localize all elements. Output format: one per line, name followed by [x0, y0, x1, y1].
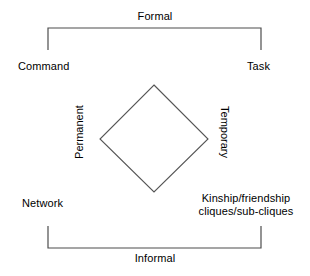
axis-label-temporary: Temporary [219, 100, 231, 164]
axis-label-permanent: Permanent [73, 100, 85, 164]
bottom-bracket [48, 226, 261, 248]
label-task: Task [247, 60, 270, 73]
label-kinship-cliques: Kinship/friendship cliques/sub-cliques [185, 192, 307, 218]
label-kinship-line1: Kinship/friendship [202, 192, 291, 204]
label-network: Network [22, 197, 63, 210]
label-command: Command [18, 60, 69, 73]
label-formal: Formal [0, 10, 310, 23]
center-diamond [100, 85, 208, 192]
label-informal: Informal [0, 252, 310, 265]
top-bracket [48, 28, 261, 50]
diagram-linework [0, 0, 310, 276]
label-kinship-line2: cliques/sub-cliques [199, 205, 294, 217]
organization-structure-diagram: Formal Command Task Permanent Temporary … [0, 0, 310, 276]
